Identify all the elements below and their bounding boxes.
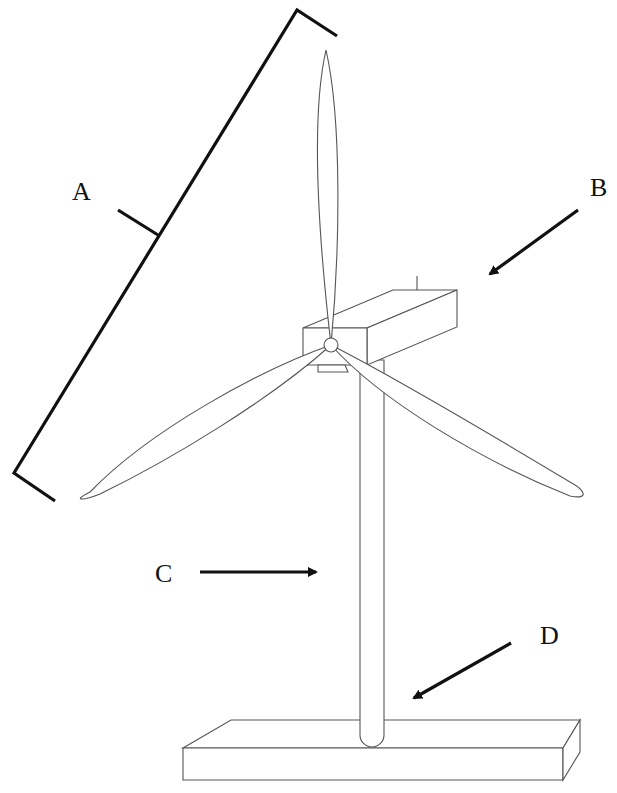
label-a: A	[72, 177, 91, 206]
arrow-d	[414, 643, 511, 698]
arrow-b	[490, 210, 578, 274]
label-b: B	[590, 173, 607, 202]
hub	[324, 338, 338, 352]
label-d: D	[540, 621, 559, 650]
tower	[360, 360, 384, 747]
blade-top	[318, 50, 338, 345]
label-c: C	[155, 559, 172, 588]
wind-turbine-diagram: A B C D	[0, 0, 617, 793]
blade-left	[80, 345, 331, 499]
